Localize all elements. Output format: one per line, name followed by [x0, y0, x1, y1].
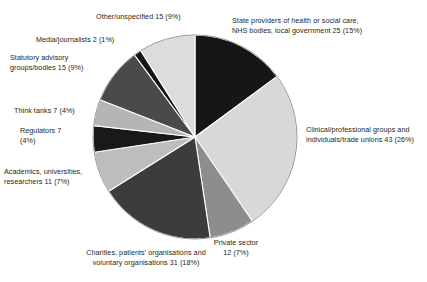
slice-label-media-journalists: Media/journalists 2 (1%) — [36, 35, 144, 45]
slice-label-clinical-professional: Clinical/professional groups and individ… — [306, 125, 426, 145]
slice-label-regulators: Regulators 7 (4%) — [20, 126, 132, 146]
slice-label-think-tanks: Think tanks 7 (4%) — [14, 106, 132, 116]
slice-label-academics: Academics, universities, researchers 11 … — [4, 167, 132, 187]
pie-chart: State providers of health or social care… — [0, 0, 427, 282]
slice-label-statutory-advisory: Statutory advisory groups/bodies 15 (9%) — [10, 53, 132, 73]
slice-label-other-unspecified: Other/unspecified 15 (9%) — [96, 12, 232, 22]
slice-label-charities: Charities, patients' organisations and v… — [54, 248, 238, 268]
slice-label-state-providers: State providers of health or social care… — [232, 16, 412, 36]
